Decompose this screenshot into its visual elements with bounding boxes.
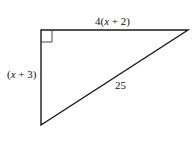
top-side-label: 4(x + 2) bbox=[95, 15, 130, 28]
right-triangle-figure: 4(x + 2) (x + 3) 25 bbox=[0, 0, 196, 145]
triangle-shape bbox=[41, 30, 188, 125]
right-angle-marker bbox=[41, 30, 52, 42]
left-side-label: (x + 3) bbox=[7, 68, 37, 81]
hypotenuse-label: 25 bbox=[115, 79, 127, 91]
